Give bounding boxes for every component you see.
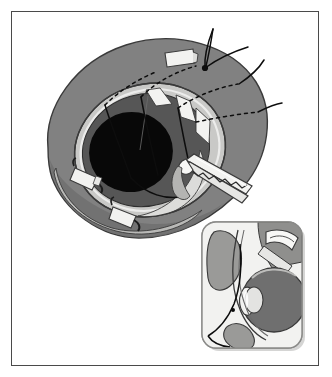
- sagittal-inset: [202, 222, 306, 351]
- figure-root: Grayscale line-and-tone surgical drawing…: [0, 0, 332, 377]
- surgical-illustration-canvas: [0, 0, 332, 377]
- inset-suture-needle: [231, 308, 235, 312]
- suture-knot: [202, 65, 208, 71]
